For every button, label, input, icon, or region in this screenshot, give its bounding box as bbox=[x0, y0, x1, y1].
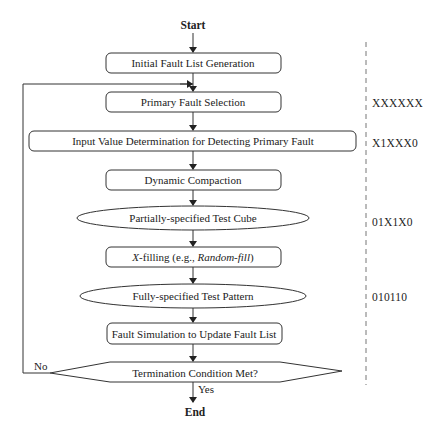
random-fill-italic: Random-fill bbox=[197, 251, 250, 263]
step-initial-fault-list: Initial Fault List Generation bbox=[131, 57, 254, 69]
step-partially-specified: Partially-specified Test Cube bbox=[129, 212, 256, 224]
x-filling-suffix: ) bbox=[250, 251, 254, 263]
side-value-input: X1XXX0 bbox=[372, 137, 418, 149]
step-primary-fault-selection: Primary Fault Selection bbox=[141, 96, 245, 108]
step-fault-simulation: Fault Simulation to Update Fault List bbox=[112, 328, 277, 340]
branch-yes-label: Yes bbox=[198, 383, 214, 395]
side-value-full: 010110 bbox=[372, 291, 407, 303]
step-fully-specified: Fully-specified Test Pattern bbox=[132, 290, 253, 302]
branch-no-label: No bbox=[34, 360, 47, 372]
step-termination-condition: Termination Condition Met? bbox=[132, 367, 258, 379]
step-dynamic-compaction: Dynamic Compaction bbox=[145, 174, 242, 186]
step-x-filling: X-filling (e.g., Random-fill) bbox=[132, 251, 253, 263]
side-value-partial: 01X1X0 bbox=[372, 216, 413, 228]
side-value-primary: XXXXXX bbox=[372, 97, 423, 109]
x-italic: X bbox=[132, 251, 139, 263]
x-filling-mid: -filling (e.g., bbox=[139, 251, 197, 263]
start-label: Start bbox=[181, 19, 206, 31]
end-label: End bbox=[185, 406, 205, 418]
step-input-value-determination: Input Value Determination for Detecting … bbox=[72, 135, 314, 147]
